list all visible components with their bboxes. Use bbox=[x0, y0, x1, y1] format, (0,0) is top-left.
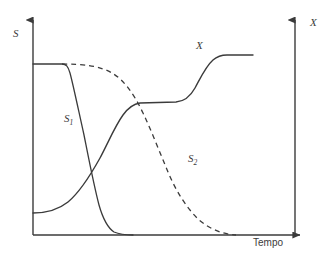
curve-s1 bbox=[33, 64, 133, 235]
chart-plot-area bbox=[0, 0, 325, 258]
x-axis-label: Tempo bbox=[253, 238, 283, 248]
left-axis-label: S bbox=[13, 28, 19, 39]
curve-label-s1-sub: 1 bbox=[70, 118, 74, 127]
curve-s2 bbox=[62, 64, 236, 235]
curve-label-x: X bbox=[196, 40, 203, 51]
right-axis-label: X bbox=[310, 17, 317, 28]
curve-label-s2: S2 bbox=[188, 153, 197, 167]
curve-label-s1: S1 bbox=[64, 113, 73, 127]
chart-figure: S X Tempo S1 S2 X bbox=[0, 0, 325, 258]
curve-label-s2-sub: 2 bbox=[194, 158, 198, 167]
curve-x bbox=[33, 55, 253, 213]
